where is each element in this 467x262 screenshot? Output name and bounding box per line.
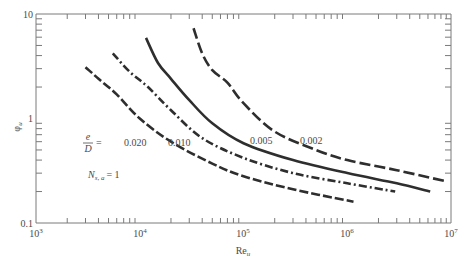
y-tick-label-1: 1 (28, 113, 33, 124)
svg-text:e: e (86, 131, 91, 142)
curve-e-d-0005 (146, 38, 430, 192)
n-sa-label: Ns, a= 1 (87, 169, 120, 182)
curve-e-d-0002 (194, 28, 447, 181)
curve-label-0002: 0.002 (300, 135, 323, 146)
x-tick-label-1e7: 107 (444, 227, 458, 239)
e-over-d-label: e D = (83, 131, 102, 154)
curve-label-0010: 0.010 (168, 137, 191, 148)
curves (86, 28, 447, 201)
y-axis-ticks (36, 19, 451, 192)
x-tick-label-1e6: 106 (340, 227, 354, 239)
curve-label-0005: 0.005 (250, 135, 273, 146)
curve-label-0020: 0.020 (124, 137, 147, 148)
svg-text:=: = (96, 137, 102, 148)
x-axis-title: Reu (236, 245, 251, 258)
y-tick-label-10: 10 (23, 9, 33, 20)
x-tick-label-1e4: 104 (133, 227, 147, 239)
x-tick-labels: 103 104 105 106 107 (29, 227, 458, 239)
x-tick-label-1e3: 103 (29, 227, 43, 239)
friction-factor-chart: 10 1 0.1 103 104 105 106 107 Reu φu e D … (0, 0, 467, 262)
x-tick-label-1e5: 105 (236, 227, 250, 239)
y-axis-title: φu (11, 122, 24, 132)
svg-text:D: D (83, 143, 92, 154)
curve-e-d-0010 (113, 53, 395, 191)
plot-frame (36, 14, 451, 223)
